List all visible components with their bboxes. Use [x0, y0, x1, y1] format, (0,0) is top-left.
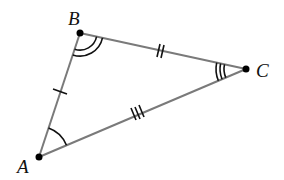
- vertex-b-dot: [77, 30, 84, 37]
- side-ab: [39, 33, 80, 157]
- triangle-diagram: [0, 0, 284, 180]
- vertex-label-b: B: [68, 9, 80, 28]
- angle-arc-a: [49, 128, 67, 145]
- vertex-c-dot: [243, 66, 250, 73]
- vertex-label-a: A: [17, 157, 29, 176]
- vertex-label-c: C: [256, 61, 269, 80]
- vertex-a-dot: [36, 154, 43, 161]
